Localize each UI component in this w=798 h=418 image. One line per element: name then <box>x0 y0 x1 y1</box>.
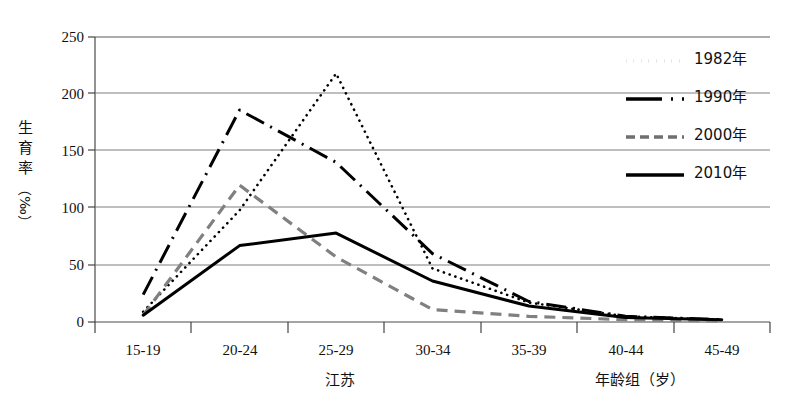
x-tick-label-30-34: 30-34 <box>393 342 473 358</box>
legend-item-1982: 1982年 <box>624 48 784 86</box>
legend-label-1990: 1990年 <box>694 86 747 108</box>
y-axis-ticks <box>88 37 95 322</box>
x-tick-label-15-19: 15-19 <box>103 342 183 358</box>
x-tick-label-20-24: 20-24 <box>200 342 280 358</box>
x-axis-title: 年龄组（岁） <box>570 368 710 389</box>
chart-legend: 1982年 1990年 2000年 2010年 <box>624 48 784 200</box>
x-axis-ticks <box>95 322 770 333</box>
legend-swatch-dashed-icon <box>624 132 686 142</box>
legend-swatch-solid-icon <box>624 170 686 180</box>
x-tick-label-40-44: 40-44 <box>586 342 666 358</box>
legend-swatch-dash-dot-icon <box>624 94 686 104</box>
series-line-2010 <box>143 233 722 320</box>
legend-item-2000: 2000年 <box>624 124 784 162</box>
legend-label-2000: 2000年 <box>694 124 747 146</box>
legend-swatch-dotted-icon <box>624 56 686 66</box>
legend-item-2010: 2010年 <box>624 162 784 200</box>
region-caption: 江苏 <box>270 368 410 389</box>
x-tick-label-35-39: 35-39 <box>489 342 569 358</box>
legend-label-2010: 2010年 <box>694 162 747 184</box>
legend-item-1990: 1990年 <box>624 86 784 124</box>
legend-label-1982: 1982年 <box>694 48 747 70</box>
x-tick-label-45-49: 45-49 <box>682 342 762 358</box>
fertility-rate-line-chart: 生 育 率 （‰） 250 200 150 100 50 0 <box>0 0 798 418</box>
x-tick-label-25-29: 25-29 <box>296 342 376 358</box>
